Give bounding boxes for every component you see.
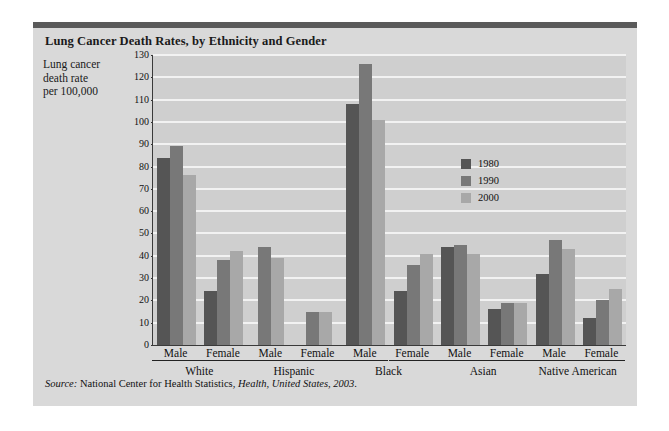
legend-item: 1980 (461, 156, 499, 171)
x-axis-gender-label: Male (436, 347, 483, 361)
y-axis-tick-label: 50 (139, 228, 149, 238)
bar (454, 245, 467, 345)
y-axis-title-line-2: death rate (43, 72, 129, 86)
bar (346, 104, 359, 345)
x-axis-gender-label: Female (389, 347, 436, 361)
bar (230, 251, 243, 345)
x-axis-ethnicity-label: Asian (436, 365, 531, 377)
bar (271, 258, 284, 345)
legend-swatch-icon (461, 176, 471, 186)
legend-swatch-icon (461, 159, 471, 169)
bar (549, 240, 562, 345)
x-axis-gender-label: Male (530, 347, 577, 361)
bar (258, 247, 271, 345)
x-axis-ethnicity-label: White (152, 365, 247, 377)
bar (488, 309, 501, 345)
bar (609, 289, 622, 345)
legend: 198019902000 (461, 156, 499, 207)
x-axis-gender-label: Female (294, 347, 341, 361)
legend-swatch-icon (461, 193, 471, 203)
y-axis-tick-label: 60 (139, 206, 149, 216)
bar (170, 146, 183, 345)
bar (183, 175, 196, 345)
y-axis-tick-label: 80 (139, 162, 149, 172)
y-axis-tick-label: 110 (134, 95, 149, 105)
x-axis-gender-label: Male (152, 347, 199, 361)
source-publication: Health, United States, 2003 (238, 378, 354, 389)
x-axis-gender-label: Female (578, 347, 625, 361)
y-axis-tick-label: 10 (139, 318, 149, 328)
y-axis-tick-label: 0 (144, 340, 149, 350)
y-axis-tick-label: 130 (134, 50, 149, 60)
bar (359, 64, 372, 345)
bar (372, 120, 385, 345)
page-title: Lung Cancer Death Rates, by Ethnicity an… (45, 34, 327, 49)
x-axis-ethnicity-label: Native American (530, 365, 625, 377)
bar (407, 265, 420, 345)
x-axis-ethnicity-label: Black (341, 365, 436, 377)
y-axis-tick-label: 70 (139, 184, 149, 194)
y-axis-tick-label: 40 (139, 251, 149, 261)
y-axis-title-line-3: per 100,000 (43, 85, 129, 99)
bar (536, 274, 549, 345)
source-period: . (354, 378, 357, 389)
figure-top-rule (33, 22, 637, 28)
source-label: Source: (45, 378, 77, 389)
x-axis-ethnicity-label: Hispanic (247, 365, 342, 377)
bar (319, 312, 332, 345)
bar (394, 291, 407, 345)
figure-panel: Lung Cancer Death Rates, by Ethnicity an… (33, 22, 637, 406)
bar (501, 303, 514, 345)
bar-series-container (153, 55, 626, 345)
y-axis-title: Lung cancer death rate per 100,000 (43, 58, 129, 99)
bar (441, 247, 454, 345)
legend-label: 2000 (478, 192, 499, 203)
bar (157, 158, 170, 345)
bar (562, 249, 575, 345)
plot-wrapper: 0102030405060708090100110120130 19801990… (130, 55, 625, 345)
legend-label: 1980 (478, 158, 499, 169)
legend-label: 1990 (478, 175, 499, 186)
bar (467, 254, 480, 345)
y-axis-tick-label: 100 (134, 117, 149, 127)
bar (420, 254, 433, 345)
x-axis-gender-label: Female (483, 347, 530, 361)
bar (583, 318, 596, 345)
x-axis-gender-label: Female (199, 347, 246, 361)
y-axis-tick-label: 120 (134, 72, 149, 82)
y-axis-tick-label: 30 (139, 273, 149, 283)
y-axis-ticks: 0102030405060708090100110120130 (130, 55, 152, 345)
legend-item: 1990 (461, 173, 499, 188)
source-agency: National Center for Health Statistics, (80, 378, 235, 389)
x-axis-gender-label: Male (341, 347, 388, 361)
y-axis-tick-label: 90 (139, 139, 149, 149)
plot-area: 198019902000 (152, 55, 626, 346)
bar (596, 300, 609, 345)
y-axis-tick-label: 20 (139, 295, 149, 305)
y-axis-title-line-1: Lung cancer (43, 58, 129, 72)
bar (204, 291, 217, 345)
x-axis-gender-label: Male (247, 347, 294, 361)
source-note: Source: National Center for Health Stati… (45, 378, 357, 389)
bar (306, 312, 319, 345)
legend-item: 2000 (461, 190, 499, 205)
bar (514, 303, 527, 345)
bar (217, 260, 230, 345)
